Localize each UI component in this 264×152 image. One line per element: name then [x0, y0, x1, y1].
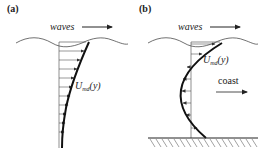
panel-b-drawing — [148, 27, 258, 147]
panel-a-drawing — [16, 27, 128, 148]
velocity-profile-curve — [62, 42, 89, 148]
velocity-profile-curve — [181, 43, 222, 138]
seabed-hatching — [150, 139, 257, 147]
diagram-drawing — [0, 0, 264, 152]
